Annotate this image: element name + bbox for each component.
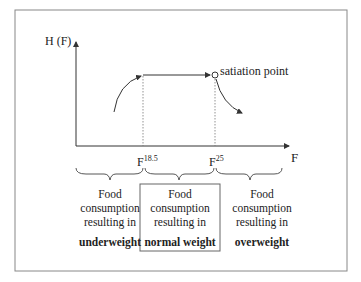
rising-curve	[114, 76, 141, 112]
col-line: Food	[214, 187, 310, 201]
brace-normal	[145, 168, 214, 180]
tick-f18-5: F18.5	[137, 152, 158, 169]
col-line: resulting in	[214, 215, 310, 229]
tick-sup: 18.5	[144, 154, 158, 163]
tick-base: F	[137, 155, 144, 169]
brace-underweight	[76, 168, 143, 180]
col-line: consumption	[214, 201, 310, 215]
x-axis-label: F	[291, 151, 298, 165]
tick-base: F	[209, 155, 216, 169]
satiation-point-label: satiation point	[220, 64, 288, 78]
y-axis-label: H (F)	[45, 34, 71, 48]
descending-curve	[216, 79, 242, 113]
col-category: overweight	[214, 235, 310, 249]
satiation-point-marker	[212, 72, 218, 78]
tick-f25: F25	[209, 152, 224, 169]
brace-overweight	[216, 168, 282, 180]
tick-sup: 25	[216, 154, 224, 163]
column-overweight: Food consumption resulting in overweight	[214, 187, 310, 249]
